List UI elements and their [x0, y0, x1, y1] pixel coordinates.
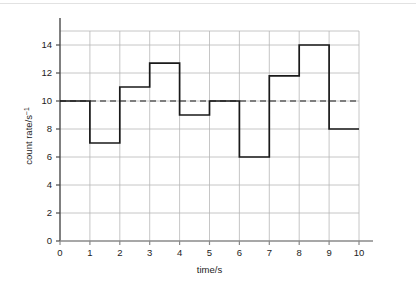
y-tick-label: 14: [41, 39, 52, 50]
x-tick-label: 0: [57, 247, 62, 258]
x-axis-ticks: 012345678910: [57, 241, 364, 258]
y-tick-label: 12: [41, 67, 52, 78]
y-tick-label: 4: [47, 179, 52, 190]
y-tick-label: 2: [47, 207, 52, 218]
x-tick-label: 5: [207, 247, 212, 258]
x-tick-label: 3: [147, 247, 152, 258]
y-axis-title: count rate/s−1: [23, 107, 34, 165]
x-axis-title: time/s: [197, 264, 223, 275]
y-tick-label: 10: [41, 95, 52, 106]
x-tick-label: 1: [87, 247, 92, 258]
x-tick-label: 9: [326, 247, 331, 258]
x-tick-label: 2: [117, 247, 122, 258]
x-tick-label: 7: [267, 247, 272, 258]
grid-lines: [60, 31, 359, 241]
x-tick-label: 6: [237, 247, 242, 258]
y-tick-label: 8: [47, 123, 52, 134]
y-tick-label: 6: [47, 151, 52, 162]
y-tick-label: 0: [47, 235, 52, 246]
x-tick-label: 10: [354, 247, 365, 258]
chart-figure: 02468101214012345678910time/scount rate/…: [0, 0, 416, 282]
y-axis-title-text: count rate/s−1: [23, 107, 34, 165]
y-axis-ticks: 02468101214: [41, 39, 60, 246]
x-tick-label: 4: [177, 247, 182, 258]
step-chart-canvas: 02468101214012345678910time/scount rate/…: [0, 0, 416, 282]
x-tick-label: 8: [297, 247, 302, 258]
